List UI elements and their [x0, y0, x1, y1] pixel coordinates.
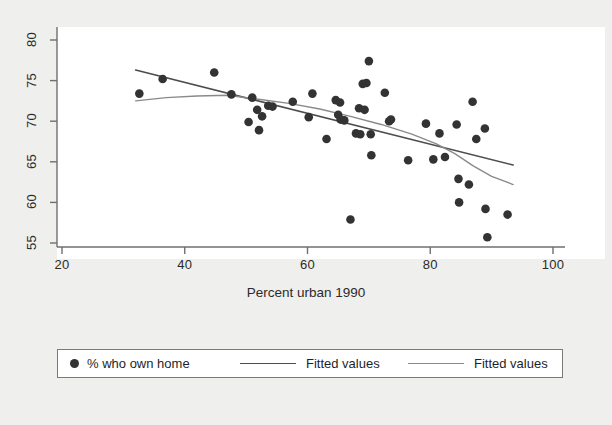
data-point — [422, 119, 431, 128]
data-point — [441, 153, 450, 162]
fitted-line-linear — [136, 70, 513, 165]
x-axis-tick-label: 40 — [165, 257, 205, 272]
data-point — [452, 120, 461, 129]
data-point — [365, 57, 374, 66]
data-point — [244, 118, 253, 127]
x-axis-tick-label: 60 — [288, 257, 328, 272]
data-point — [308, 89, 317, 98]
legend-label-fitted-lowess: Fitted values — [474, 356, 548, 371]
data-point — [367, 151, 376, 160]
data-point — [210, 68, 219, 77]
y-axis-tick-label: 70 — [24, 104, 39, 138]
data-point — [468, 97, 477, 106]
filled-circle-icon — [70, 359, 79, 368]
legend-label-fitted-linear: Fitted values — [306, 356, 380, 371]
axis-lines — [50, 27, 565, 254]
y-axis-tick-label: 75 — [24, 63, 39, 97]
data-point — [248, 93, 257, 102]
data-point — [258, 112, 267, 121]
legend-entry-fitted-lowess: Fitted values — [408, 350, 548, 377]
data-point — [404, 156, 413, 165]
data-point — [268, 102, 277, 111]
data-point — [340, 116, 349, 125]
x-axis-tick-label: 80 — [410, 257, 450, 272]
data-point — [481, 124, 490, 133]
data-point — [362, 79, 371, 88]
y-axis-tick-label: 65 — [24, 144, 39, 178]
data-point — [336, 98, 345, 107]
data-point — [227, 90, 236, 99]
data-point — [366, 130, 375, 139]
data-point — [135, 89, 144, 98]
x-axis-tick-label: 20 — [42, 257, 82, 272]
data-point — [503, 210, 512, 219]
data-point — [322, 135, 331, 144]
chart-legend: % who own home Fitted values Fitted valu… — [57, 349, 563, 378]
y-axis-tick-label: 60 — [24, 185, 39, 219]
data-point — [472, 135, 481, 144]
data-point — [158, 75, 167, 84]
data-point — [483, 233, 492, 242]
data-point — [481, 205, 490, 214]
line-swatch-light-icon — [408, 363, 464, 364]
x-axis-tick-label: 100 — [533, 257, 573, 272]
data-point — [465, 180, 474, 189]
y-axis-tick-label: 80 — [24, 23, 39, 57]
line-swatch-icon — [240, 363, 296, 364]
legend-label-own-home: % who own home — [87, 356, 190, 371]
chart-figure: 556065707580 20406080100 Percent urban 1… — [0, 0, 612, 425]
data-point — [381, 88, 390, 97]
data-point — [356, 130, 365, 139]
y-axis-tick-label: 55 — [24, 226, 39, 260]
data-point — [346, 215, 355, 224]
legend-entry-fitted-linear: Fitted values — [240, 350, 380, 377]
data-point — [255, 126, 264, 135]
data-point — [360, 106, 369, 115]
data-point — [288, 97, 297, 106]
data-point — [455, 198, 464, 207]
x-axis-title: Percent urban 1990 — [0, 285, 612, 300]
data-point — [435, 129, 444, 138]
data-point — [387, 115, 396, 124]
legend-entry-own-home: % who own home — [70, 350, 190, 377]
data-point — [454, 175, 463, 184]
data-point — [304, 113, 313, 122]
data-point — [429, 155, 438, 164]
